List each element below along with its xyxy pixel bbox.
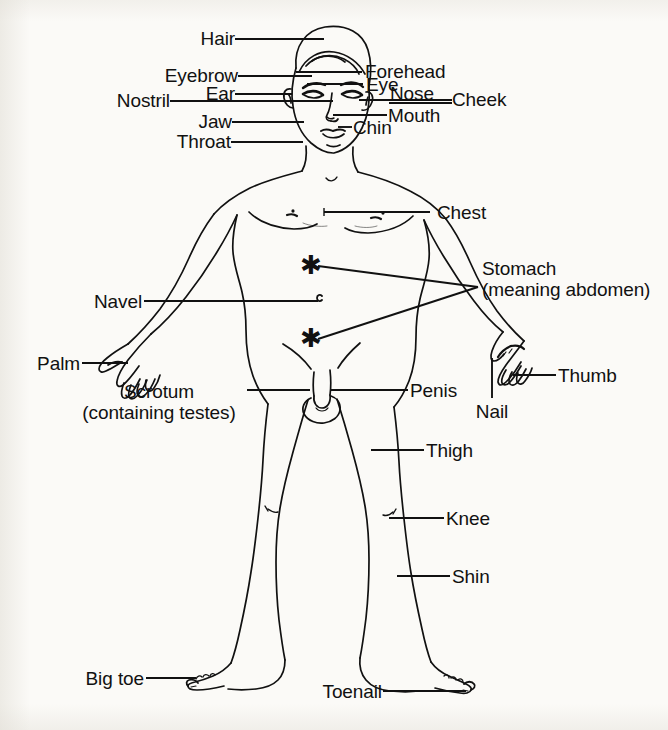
label-navel: Navel bbox=[72, 291, 142, 312]
label-stomach: Stomach (meaning abdomen) bbox=[482, 258, 650, 300]
neck-and-shoulders bbox=[214, 146, 446, 219]
left-arm bbox=[128, 214, 237, 344]
stomach-markers: ✱ ✱ bbox=[300, 251, 322, 353]
label-mouth: Mouth bbox=[388, 105, 440, 126]
label-cheek: Cheek bbox=[452, 89, 506, 110]
label-nostril: Nostril bbox=[88, 90, 170, 111]
left-leg bbox=[231, 400, 308, 663]
label-jaw: Jaw bbox=[180, 111, 232, 132]
label-thumb: Thumb bbox=[558, 365, 617, 386]
label-big-toe: Big toe bbox=[62, 668, 144, 689]
asterisk-marker-upper: ✱ bbox=[300, 251, 322, 280]
label-nose: Nose bbox=[390, 83, 434, 104]
genitals bbox=[303, 370, 340, 423]
label-toenail: Toenail bbox=[290, 681, 382, 702]
right-hand bbox=[491, 332, 532, 385]
label-knee: Knee bbox=[446, 508, 490, 529]
label-stomach-line2: (meaning abdomen) bbox=[482, 279, 650, 300]
label-ear: Ear bbox=[180, 83, 235, 104]
label-scrotum: Scrotum (containing testes) bbox=[72, 381, 246, 423]
label-chin: Chin bbox=[353, 117, 392, 138]
label-hair: Hair bbox=[180, 28, 235, 49]
body-parts-diagram-page: ✱ ✱ Hair Forehead Eyebrow Eye Nose Ear C… bbox=[0, 0, 668, 730]
label-thigh: Thigh bbox=[426, 440, 473, 461]
label-scrotum-line1: Scrotum bbox=[72, 381, 246, 402]
label-chest: Chest bbox=[437, 202, 486, 223]
left-foot bbox=[187, 660, 285, 690]
label-scrotum-line2: (containing testes) bbox=[72, 402, 246, 423]
leader-stomach-lower bbox=[318, 287, 478, 339]
leader-stomach-upper bbox=[318, 266, 478, 287]
label-palm: Palm bbox=[22, 353, 80, 374]
right-leg bbox=[337, 399, 431, 662]
label-nail: Nail bbox=[462, 401, 522, 422]
label-stomach-line1: Stomach bbox=[482, 258, 650, 279]
label-shin: Shin bbox=[452, 566, 490, 587]
label-throat: Throat bbox=[150, 131, 231, 152]
label-penis: Penis bbox=[410, 380, 457, 401]
asterisk-marker-lower: ✱ bbox=[300, 324, 322, 353]
